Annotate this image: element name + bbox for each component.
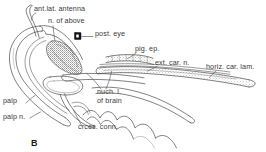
panel-letter-b: B: [31, 138, 38, 148]
label-crces-conn: crces. conn.: [78, 123, 118, 131]
upper-left-arc: [13, 48, 15, 69]
ventral-band-shape: [61, 73, 145, 83]
post-eye-marker: [75, 33, 82, 40]
label-horiz-car-lam: horiz. car. lam.: [206, 63, 254, 71]
label-ext-car-n: ext. car. n.: [155, 59, 189, 67]
drawing-strokes: [9, 5, 255, 148]
pig-ep-shape: [106, 55, 154, 65]
label-post-eye: post. eye: [95, 30, 125, 38]
leader-palp-n: [30, 112, 41, 118]
label-n-of-above: n. of above: [48, 17, 85, 25]
anatomy-line-drawing: [0, 0, 266, 152]
label-nuch-l-of-brain-line2: of brain: [97, 97, 122, 105]
label-palp: palp: [3, 97, 17, 105]
anatomical-figure-panel-b: ant.lat. antenna n. of above post. eye p…: [0, 0, 266, 152]
label-pig-ep: pig. ep.: [135, 45, 159, 53]
label-palp-n: palp n.: [3, 113, 25, 121]
ventral-lip-shape: [43, 76, 83, 95]
label-ant-lat-antenna: ant.lat. antenna: [34, 5, 85, 13]
